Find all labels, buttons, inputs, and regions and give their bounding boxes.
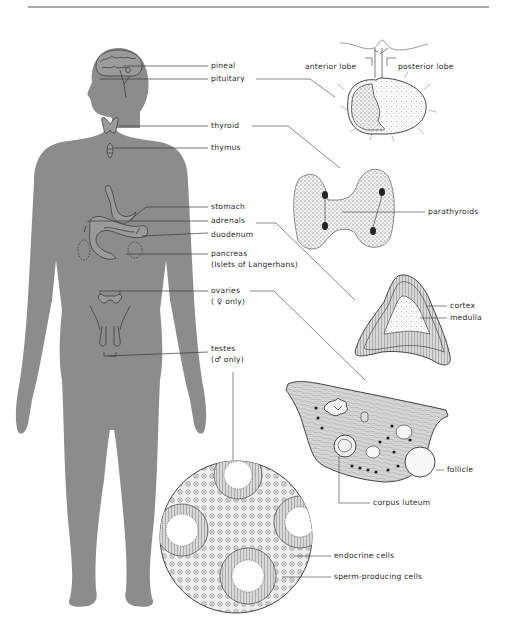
- label-pituitary: pituitary: [211, 74, 245, 84]
- label-thyroid: thyroid: [211, 121, 239, 131]
- label-anterior-lobe: anterior lobe: [305, 62, 356, 72]
- ovary-detail: [286, 382, 448, 503]
- label-pineal: pineal: [211, 61, 235, 71]
- label-endocrine-cells: endocrine cells: [334, 551, 394, 561]
- label-duodenum: duodenum: [211, 230, 253, 240]
- label-pancreas-sub: (Islets of Langerhans): [211, 260, 298, 270]
- label-testes-sub: (♂ only): [211, 355, 244, 365]
- label-adrenals: adrenals: [211, 216, 245, 226]
- thyroid-on-body: [101, 118, 118, 133]
- adrenal-detail: [355, 275, 450, 365]
- thyroid-detail: [294, 169, 425, 249]
- label-ovaries-sub: ( ♀ only): [211, 297, 245, 307]
- label-medulla: medulla: [450, 313, 482, 323]
- label-ovaries: ovaries: [211, 286, 240, 296]
- label-sperm-producing-cells: sperm-producing cells: [334, 572, 422, 582]
- diagram-artwork: [0, 0, 509, 631]
- label-posterior-lobe: posterior lobe: [398, 62, 454, 72]
- label-pancreas: pancreas: [211, 249, 247, 259]
- testis-detail: [156, 451, 331, 613]
- endocrine-diagram: pineal pituitary thyroid thymus stomach …: [0, 0, 509, 631]
- pituitary-detail: [338, 40, 436, 142]
- label-parathyroids: parathyroids: [428, 207, 478, 217]
- label-follicle: follicle: [447, 465, 473, 475]
- label-cortex: cortex: [450, 301, 475, 311]
- label-corpus-luteum: corpus luteum: [373, 498, 430, 508]
- label-stomach: stomach: [211, 202, 245, 212]
- label-thymus: thymus: [211, 143, 241, 153]
- label-testes: testes: [211, 344, 235, 354]
